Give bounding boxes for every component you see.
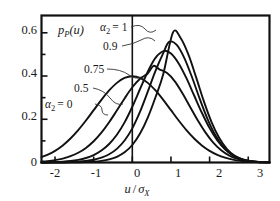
svg-text:pP(u): pP(u) — [57, 23, 84, 39]
x-axis-slash: / — [133, 182, 137, 196]
x-tick-label-2: 2 — [216, 166, 222, 180]
x-axis-u: u — [124, 182, 130, 196]
alpha-sub-0: 2 — [51, 103, 55, 113]
alpha-sub-1: 2 — [106, 26, 110, 36]
y-inline-p: p — [57, 23, 64, 37]
y-inline-arg: (u) — [69, 23, 84, 37]
x-tick-label-m2: -2 — [50, 166, 60, 180]
y-tick-label-0: 0 — [31, 155, 37, 169]
curve-callout-05: 0.5 — [74, 82, 89, 94]
y-axis-inline-label: pP(u) — [57, 23, 84, 39]
alpha-eq-0: = 0 — [57, 98, 72, 110]
x-tick-label-m1: -1 — [91, 166, 101, 180]
curve-callout-075: 0.75 — [84, 63, 104, 75]
chart-figure: 0.6 0.4 0.2 0 -2 -1 0 1 2 3 u/σX pP(u) α… — [0, 0, 280, 201]
x-axis-sub: X — [143, 188, 150, 198]
y-tick-label-04: 0.4 — [21, 66, 37, 80]
x-tick-label-3: 3 — [257, 166, 263, 180]
x-tick-label-1: 1 — [175, 166, 181, 180]
y-tick-label-06: 0.6 — [21, 23, 37, 37]
y-tick-label-02: 0.2 — [21, 109, 37, 123]
alpha-eq-1: = 1 — [112, 21, 127, 33]
curve-callout-09: 0.9 — [103, 40, 118, 52]
x-tick-label-0: 0 — [134, 166, 140, 180]
